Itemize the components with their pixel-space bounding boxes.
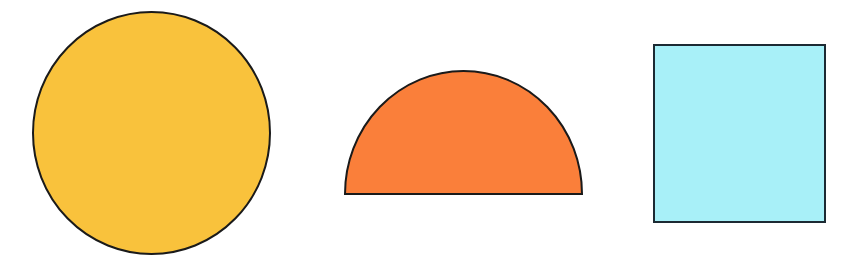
square-shape: square xyxy=(654,45,825,222)
circle-shape: circle xyxy=(33,12,270,254)
circle xyxy=(33,12,270,254)
shapes-canvas: circle semicircle square xyxy=(0,0,867,264)
square xyxy=(654,45,825,222)
